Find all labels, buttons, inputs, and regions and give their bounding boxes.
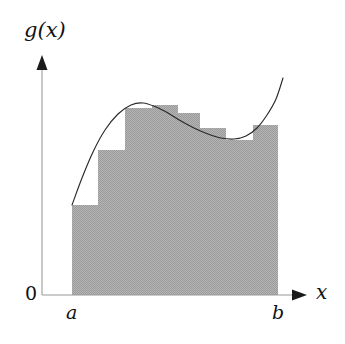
step-rectangle	[72, 205, 98, 295]
y-axis	[37, 55, 48, 295]
lower-limit-label: a	[66, 303, 77, 322]
x-axis-label: x	[316, 282, 327, 302]
figure-canvas	[0, 0, 345, 344]
step-rectangle	[152, 105, 178, 295]
step-rectangle	[178, 113, 200, 295]
step-rectangle	[253, 125, 278, 295]
step-rectangle	[226, 140, 253, 295]
riemann-sum-figure: g(x) 0 a b x	[0, 0, 345, 344]
origin-label: 0	[25, 284, 37, 303]
step-rectangle	[200, 128, 226, 295]
y-axis-label: g(x)	[24, 20, 66, 41]
step-rectangle	[125, 108, 152, 295]
y-axis-arrowhead	[37, 55, 48, 70]
upper-limit-label: b	[272, 303, 284, 322]
x-axis-arrowhead	[292, 290, 307, 301]
step-rectangle	[98, 150, 125, 295]
